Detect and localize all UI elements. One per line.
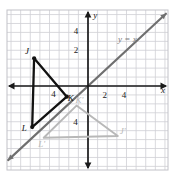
x-tick-4: 4 bbox=[122, 90, 127, 100]
y-tick-neg4: 4 bbox=[73, 117, 78, 127]
vertex-label-k: K bbox=[67, 93, 75, 103]
y-axis-label: y bbox=[92, 10, 97, 20]
vertex-label-l: L bbox=[21, 123, 27, 133]
x-axis-label: x bbox=[160, 85, 165, 95]
vertex-label-l-prime: L' bbox=[37, 139, 46, 149]
x-tick-neg4: 4 bbox=[51, 89, 56, 99]
coordinate-plane-figure: JKLJ'K'L'y = xxy424424 bbox=[0, 0, 175, 177]
line-label: y = x bbox=[117, 34, 137, 44]
x-tick-2: 2 bbox=[103, 90, 108, 100]
y-tick-4: 4 bbox=[74, 26, 79, 36]
y-tick-2: 2 bbox=[74, 45, 79, 55]
graph-canvas: JKLJ'K'L'y = xxy424424 bbox=[0, 0, 175, 177]
vertex-label-k-prime: K' bbox=[75, 95, 85, 105]
